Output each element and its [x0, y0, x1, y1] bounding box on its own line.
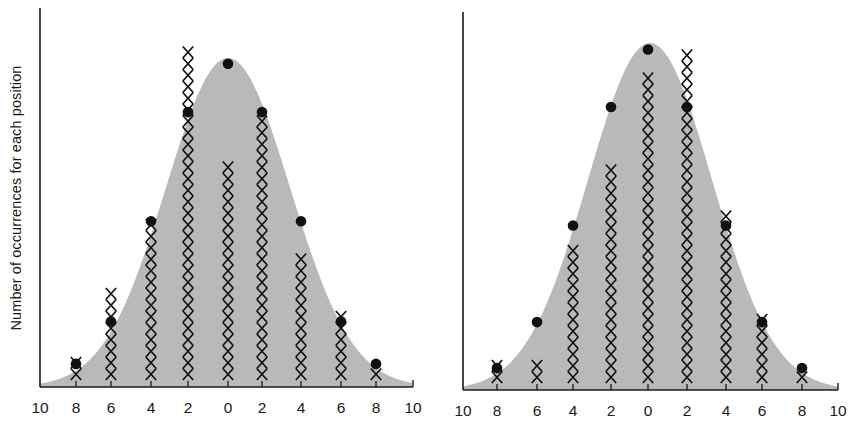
x-tick-label: 4: [147, 399, 156, 416]
expected-dot: [71, 359, 82, 370]
x-tick-label: 8: [372, 399, 381, 416]
x-mark-icon: [682, 73, 692, 85]
x-tick-label: 4: [722, 402, 731, 419]
x-mark-icon: [106, 288, 116, 300]
x-tick-label: 8: [493, 402, 502, 419]
x-tick-label: 10: [404, 399, 422, 416]
x-mark-icon: [183, 93, 193, 105]
x-tick-label: 6: [107, 399, 116, 416]
expected-dot: [606, 102, 617, 113]
expected-dot: [757, 317, 768, 328]
expected-dot: [106, 316, 117, 327]
x-tick-label: 4: [569, 402, 578, 419]
right-panel: 1086420246810: [454, 12, 847, 419]
expected-dot: [183, 107, 194, 118]
expected-dot: [721, 220, 732, 231]
x-tick-label: 0: [224, 399, 233, 416]
x-mark-icon: [682, 50, 692, 62]
expected-dot: [336, 316, 347, 327]
plot-canvas: 1086420246810 1086420246810: [0, 0, 849, 428]
x-mark-icon: [682, 84, 692, 96]
expected-dot: [257, 107, 268, 118]
x-tick-label: 2: [607, 402, 616, 419]
expected-dot: [223, 59, 234, 70]
y-axis-label: Number of occurrences for each position: [8, 65, 24, 330]
expected-dot: [492, 363, 503, 374]
x-mark-icon: [183, 47, 193, 59]
x-tick-label: 2: [184, 399, 193, 416]
x-tick-label: 4: [297, 399, 306, 416]
expected-dot: [296, 216, 307, 227]
left-panel: 1086420246810: [31, 8, 422, 416]
x-tick-label: 6: [758, 402, 767, 419]
x-tick-label: 8: [798, 402, 807, 419]
x-tick-label: 10: [829, 402, 847, 419]
bell-curve-area: [463, 43, 838, 390]
expected-dot: [532, 317, 543, 328]
x-tick-label: 10: [31, 399, 49, 416]
x-tick-label: 2: [258, 399, 267, 416]
x-mark-icon: [183, 81, 193, 93]
expected-dot: [643, 44, 654, 55]
expected-dot: [797, 363, 808, 374]
expected-dot: [682, 102, 693, 113]
x-tick-label: 8: [72, 399, 81, 416]
x-mark-icon: [183, 70, 193, 82]
chart-figure: Number of occurrences for each position …: [0, 0, 849, 428]
x-mark-icon: [682, 61, 692, 73]
x-mark-icon: [183, 58, 193, 70]
x-tick-label: 0: [644, 402, 653, 419]
expected-dot: [146, 216, 157, 227]
x-mark-icon: [106, 300, 116, 312]
x-tick-label: 6: [337, 399, 346, 416]
x-tick-label: 10: [454, 402, 472, 419]
x-tick-label: 2: [683, 402, 692, 419]
x-tick-label: 6: [533, 402, 542, 419]
expected-dot: [371, 359, 382, 370]
expected-dot: [568, 220, 579, 231]
